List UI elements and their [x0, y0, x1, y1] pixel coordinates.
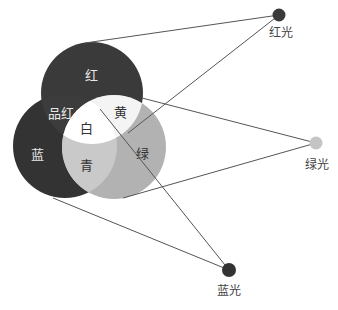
label-blue: 蓝 [31, 147, 44, 162]
label-blue-light: 蓝光 [217, 284, 241, 298]
label-green-light: 绿光 [305, 157, 329, 172]
red-light-line-top [85, 15, 279, 43]
label-red-light: 红光 [269, 25, 293, 40]
label-white: 白 [80, 121, 93, 136]
red-light-line-inner [128, 15, 279, 133]
rgb-mixing-diagram: 红 品红 黄 白 蓝 青 绿 红光 绿光 蓝光 [0, 0, 338, 310]
label-yellow: 黄 [114, 105, 127, 120]
blue-light-dot [222, 263, 236, 277]
blue-light-line-bottom [53, 198, 229, 270]
green-light-dot [310, 137, 323, 150]
label-red: 红 [85, 68, 98, 83]
label-magenta: 品红 [48, 106, 74, 121]
red-light-dot [273, 9, 286, 22]
green-light-line-top [142, 98, 316, 143]
label-green: 绿 [136, 146, 149, 161]
label-cyan: 青 [80, 158, 93, 173]
